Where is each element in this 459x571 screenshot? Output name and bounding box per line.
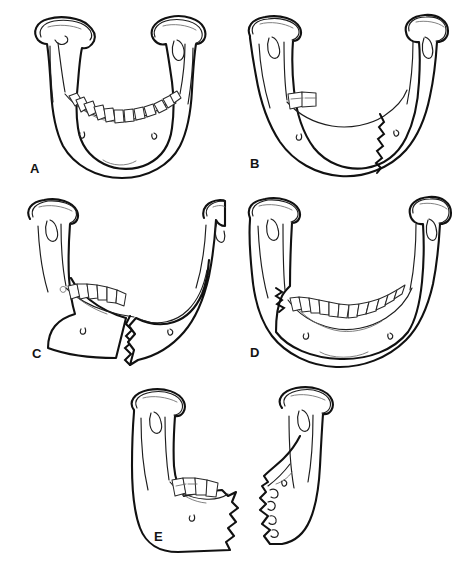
mandible-outline-d bbox=[249, 197, 451, 367]
panel-d-angle-fracture-mandible: D bbox=[232, 192, 452, 378]
mandible-right-fragment-c bbox=[128, 200, 225, 365]
panel-label-b: B bbox=[250, 157, 260, 170]
panel-c-displaced-fracture-mandible: C bbox=[8, 192, 226, 378]
panel-b-edentulous-fractured-mandible: B bbox=[232, 10, 452, 185]
panel-d-drawing bbox=[232, 192, 452, 378]
panel-label-a: A bbox=[30, 162, 40, 175]
fragment-left-e bbox=[132, 389, 238, 552]
panel-label-d: D bbox=[250, 346, 260, 359]
right-body-inner-c bbox=[142, 270, 207, 323]
mandible-left-fragment-c bbox=[28, 199, 126, 358]
figure-root: A bbox=[0, 0, 459, 571]
top-caption-strip bbox=[0, 0, 459, 8]
symphysis-contour-d bbox=[320, 352, 368, 357]
panel-e-separated-fragments: E bbox=[118, 386, 348, 566]
fragment-right-e bbox=[260, 387, 333, 544]
tooth-row-d bbox=[290, 285, 405, 318]
panel-label-c: C bbox=[32, 347, 42, 360]
right-mental-foramen-d bbox=[388, 333, 393, 339]
panel-a-intact-mandible: A bbox=[8, 10, 226, 185]
right-mental-foramen-a bbox=[152, 133, 157, 139]
mandible-outline-b bbox=[249, 15, 448, 176]
tooth-row-a bbox=[69, 91, 181, 123]
right-mental-foramen-b bbox=[394, 130, 399, 136]
right-ramus-border-b bbox=[407, 42, 413, 104]
remaining-molars-b bbox=[288, 92, 316, 109]
left-mental-foramen-d bbox=[303, 333, 308, 339]
tooth-row-e bbox=[172, 478, 218, 497]
panel-a-drawing bbox=[8, 10, 226, 185]
panel-e-drawing bbox=[118, 386, 348, 566]
right-ramus-border-d bbox=[410, 224, 416, 290]
panel-label-e: E bbox=[154, 530, 163, 543]
panel-b-drawing bbox=[232, 10, 452, 185]
symphysis-contour-a bbox=[103, 160, 136, 165]
